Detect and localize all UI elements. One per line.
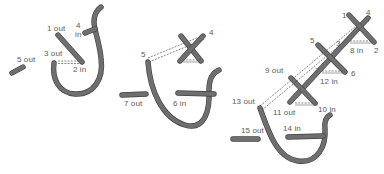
label-fig3-1: 1 bbox=[342, 12, 347, 20]
label-fig3-11-out: 11 out bbox=[273, 109, 295, 117]
figure-3-art bbox=[233, 15, 374, 161]
label-fig3-4: 4 bbox=[366, 9, 371, 17]
label-fig3-15-out: 15 out bbox=[241, 127, 264, 135]
label-fig3-12-in: 12 in bbox=[320, 78, 338, 86]
label-fig3-2: 2 bbox=[374, 47, 379, 55]
figure-2-art bbox=[122, 35, 219, 126]
label-fig3-3: 3 bbox=[336, 40, 341, 48]
label-fig1-4-in: in bbox=[75, 31, 81, 39]
label-fig3-6: 6 bbox=[351, 70, 356, 78]
label-fig2-4: 4 bbox=[209, 29, 214, 37]
label-fig2-5: 5 bbox=[141, 51, 146, 59]
label-fig3-5: 5 bbox=[310, 37, 315, 45]
label-fig3-7: 7 bbox=[315, 67, 320, 75]
stitch-diagram: 1 out 4 in 3 out 2 in 5 out 4 5 7 out 6 … bbox=[0, 0, 384, 174]
label-fig2-7-out: 7 out bbox=[124, 100, 142, 108]
label-fig1-5-out: 5 out bbox=[17, 56, 35, 64]
label-fig3-14-in: 14 in bbox=[283, 125, 301, 133]
label-fig3-9-out: 9 out bbox=[265, 67, 283, 75]
label-fig3-10-in: 10 in bbox=[318, 106, 336, 114]
label-fig2-6-in: 6 in bbox=[173, 100, 186, 108]
label-fig1-4: 4 bbox=[76, 22, 81, 30]
label-fig3-8-in: 8 in bbox=[350, 47, 363, 55]
label-fig1-2-in: 2 in bbox=[73, 66, 86, 74]
label-fig1-3-out: 3 out bbox=[44, 50, 62, 58]
label-fig3-13-out: 13 out bbox=[232, 98, 255, 106]
label-fig1-1-out: 1 out bbox=[47, 25, 65, 33]
